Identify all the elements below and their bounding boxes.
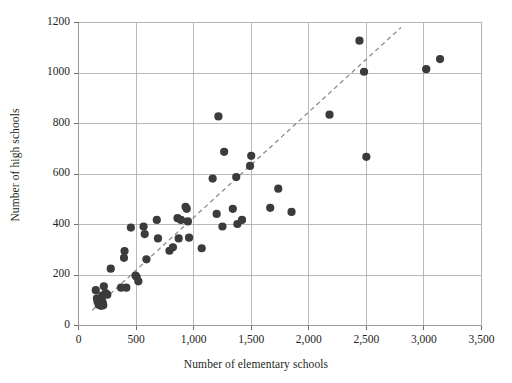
tickmarks-group — [74, 23, 482, 331]
x-tick-label: 2,000 — [279, 333, 339, 345]
data-point — [185, 234, 193, 242]
y-tick-label: 1200 — [30, 15, 70, 27]
data-point — [266, 204, 274, 212]
y-tick-label: 800 — [30, 116, 70, 128]
data-point — [153, 216, 161, 224]
data-point — [92, 286, 100, 294]
x-tick-label: 1,000 — [164, 333, 224, 345]
data-point — [154, 234, 162, 242]
trendline-group — [92, 28, 401, 311]
x-tick-label: 3,000 — [394, 333, 454, 345]
data-point — [100, 282, 108, 290]
y-tick-label: 200 — [30, 267, 70, 279]
data-point — [120, 247, 128, 255]
data-point — [177, 216, 185, 224]
data-point — [184, 217, 192, 225]
data-point — [360, 68, 368, 76]
y-tick-label: 600 — [30, 166, 70, 178]
data-point — [247, 152, 255, 160]
data-point — [220, 148, 228, 156]
plot-canvas — [0, 0, 512, 383]
data-point — [142, 255, 150, 263]
x-tick-label: 3,500 — [452, 333, 512, 345]
data-point — [355, 37, 363, 45]
data-point — [246, 162, 254, 170]
data-point — [422, 65, 430, 73]
scatter-chart-figure: 020040060080010001200 05001,0001,5002,00… — [0, 0, 512, 383]
data-point — [139, 222, 147, 230]
data-point — [169, 243, 177, 251]
datapoints-group — [92, 37, 444, 310]
data-point — [274, 185, 282, 193]
x-axis-title: Number of elementary schools — [0, 358, 512, 370]
data-point — [362, 153, 370, 161]
data-point — [141, 230, 149, 238]
data-point — [229, 205, 237, 213]
data-point — [232, 173, 240, 181]
data-point — [218, 222, 226, 230]
data-point — [209, 174, 217, 182]
trend-line — [92, 28, 401, 311]
y-tick-label: 0 — [30, 318, 70, 330]
data-point — [107, 265, 115, 273]
data-point — [122, 284, 130, 292]
x-tick-label: 2,500 — [336, 333, 396, 345]
data-point — [325, 111, 333, 119]
data-point — [213, 210, 221, 218]
data-point — [214, 112, 222, 120]
y-tick-label: 400 — [30, 217, 70, 229]
x-tick-label: 500 — [106, 333, 166, 345]
x-tick-label: 0 — [49, 333, 109, 345]
data-point — [287, 208, 295, 216]
data-point — [134, 277, 142, 285]
data-point — [103, 291, 111, 299]
data-point — [183, 205, 191, 213]
data-point — [175, 234, 183, 242]
data-point — [127, 223, 135, 231]
y-axis-title: Number of high schools — [6, 0, 24, 330]
x-tick-label: 1,500 — [221, 333, 281, 345]
data-point — [436, 55, 444, 63]
y-tick-label: 1000 — [30, 65, 70, 77]
data-point — [99, 301, 107, 309]
data-point — [198, 244, 206, 252]
data-point — [238, 216, 246, 224]
